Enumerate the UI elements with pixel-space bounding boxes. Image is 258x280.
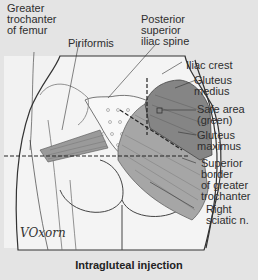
artist-signature: VOxorn: [20, 226, 66, 240]
figure-caption: Intragluteal injection: [0, 259, 258, 271]
label-superior-border-greater-trochanter: Superior border of greater trochanter: [201, 158, 251, 202]
label-greater-trochanter: Greater trochanter of femur: [7, 3, 57, 36]
label-safe-area: Safe area (green): [197, 104, 245, 126]
label-posterior-superior-iliac-spine: Posterior superior iliac spine: [141, 14, 189, 47]
label-iliac-crest: Iliac crest: [186, 60, 232, 71]
label-right-sciatic-nerve: Right sciatic n.: [206, 204, 249, 226]
label-gluteus-maximus: Gluteus maximus: [197, 130, 241, 152]
label-gluteus-medius: Gluteus medius: [194, 75, 232, 97]
figure-frame: Greater trochanter of femur Piriformis P…: [0, 0, 258, 280]
label-piriformis: Piriformis: [68, 38, 114, 49]
